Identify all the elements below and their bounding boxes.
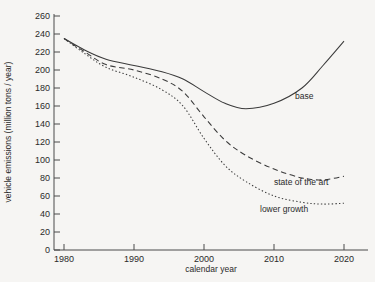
y-tick-label: 80	[40, 173, 50, 183]
series-labels: basestate of the artlower growth	[260, 91, 329, 214]
x-tick-label: 2000	[194, 254, 214, 264]
x-axis-ticks: 19801990200020102020	[54, 244, 354, 264]
y-tick-label: 100	[35, 155, 50, 165]
emissions-line-chart: 020406080100120140160180200220240260 198…	[0, 0, 375, 282]
y-tick-label: 200	[35, 65, 50, 75]
y-tick-label: 240	[35, 29, 50, 39]
y-tick-label: 140	[35, 119, 50, 129]
y-tick-label: 0	[45, 245, 50, 255]
y-tick-label: 20	[40, 227, 50, 237]
y-tick-label: 220	[35, 47, 50, 57]
y-tick-label: 160	[35, 101, 50, 111]
y-tick-label: 40	[40, 209, 50, 219]
y-tick-label: 260	[35, 11, 50, 21]
y-tick-label: 120	[35, 137, 50, 147]
y-axis-title: vehicle emissions (million tons / year)	[3, 61, 13, 202]
x-tick-label: 1980	[54, 254, 74, 264]
x-tick-label: 1990	[124, 254, 144, 264]
y-axis-ticks: 020406080100120140160180200220240260	[35, 11, 60, 255]
series-label-base: base	[295, 91, 314, 101]
series-label-state-of-the-art: state of the art	[274, 177, 329, 187]
chart-svg: 020406080100120140160180200220240260 198…	[0, 0, 375, 282]
x-tick-label: 2010	[264, 254, 284, 264]
y-tick-label: 60	[40, 191, 50, 201]
y-tick-label: 180	[35, 83, 50, 93]
x-tick-label: 2020	[334, 254, 354, 264]
series-label-lower-growth: lower growth	[260, 204, 308, 214]
x-axis-title: calendar year	[185, 264, 237, 274]
